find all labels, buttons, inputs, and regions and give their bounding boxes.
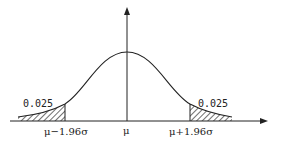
left-bound-label: μ−1.96σ (44, 126, 88, 137)
right-tail-area-label: 0.025 (198, 98, 228, 109)
left-tail-area-label: 0.025 (23, 98, 53, 109)
center-mean-label: μ (123, 125, 130, 136)
y-axis-arrow-icon (124, 7, 130, 15)
right-bound-label: μ+1.96σ (169, 126, 213, 137)
normal-curve-diagram: 0.025 0.025 μ−1.96σ μ μ+1.96σ (0, 0, 281, 151)
x-axis-arrow-icon (260, 118, 268, 124)
